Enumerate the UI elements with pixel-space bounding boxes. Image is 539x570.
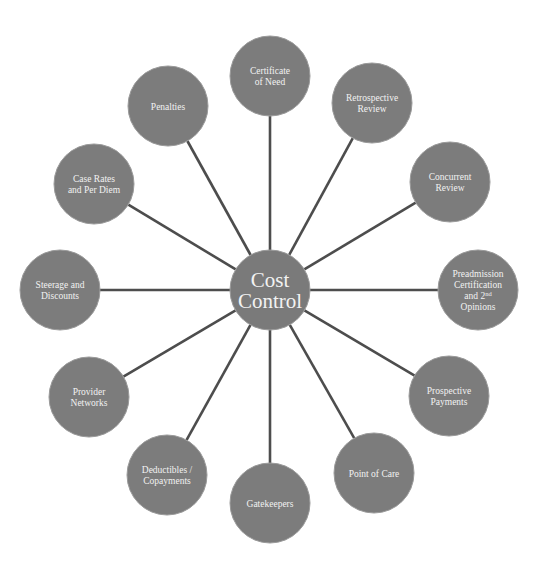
spoke-point-of-care: [290, 325, 354, 438]
spoke-provider-networks: [123, 310, 235, 376]
node-circle: [54, 144, 134, 224]
node-label-line: Payments: [431, 397, 468, 407]
node-steerage-and-discounts: Steerage andDiscounts: [20, 250, 100, 330]
node-circle: [409, 356, 489, 436]
node-provider-networks: ProviderNetworks: [49, 357, 129, 437]
node-label-line: Deductibles /: [142, 465, 193, 475]
node-preadmission-certification: PreadmissionCertificationand 2ndOpinions: [438, 250, 518, 330]
node-label-line: Concurrent: [429, 172, 472, 182]
node-label-line: Review: [435, 183, 464, 193]
center-node: CostControl: [230, 250, 310, 330]
node-label-line: Certification: [454, 280, 502, 290]
node-label-line: Control: [238, 289, 302, 313]
node-label-line: Discounts: [41, 291, 79, 301]
node-case-rates-per-diem: Case Ratesand Per Diem: [54, 144, 134, 224]
node-label-line: Gatekeepers: [247, 499, 294, 509]
node-label-line: Review: [357, 104, 386, 114]
node-label-line: Opinions: [461, 302, 496, 312]
spoke-prospective-payments: [304, 310, 414, 375]
node-circle: [410, 142, 490, 222]
node-label-line: Certificate: [250, 66, 290, 76]
node-circle: [438, 250, 518, 330]
cost-control-diagram: Certificateof NeedRetrospectiveReviewCon…: [0, 0, 539, 570]
node-label-line: Prospective: [427, 386, 471, 396]
node-retrospective-review: RetrospectiveReview: [332, 63, 412, 143]
node-point-of-care: Point of Care: [334, 433, 414, 513]
node-certificate-of-need: Certificateof Need: [230, 36, 310, 116]
node-label-line: Steerage and: [36, 280, 85, 290]
spoke-penalties: [187, 141, 250, 255]
node-label-line: Copayments: [143, 476, 191, 486]
node-label-line: Preadmission: [452, 269, 503, 279]
spoke-concurrent-review: [304, 203, 415, 270]
node-concurrent-review: ConcurrentReview: [410, 142, 490, 222]
node-label-line: Networks: [71, 398, 108, 408]
node-circle: [230, 36, 310, 116]
node-circle: [49, 357, 129, 437]
node-label-line: and Per Diem: [68, 185, 121, 195]
node-circle: [332, 63, 412, 143]
node-circle: [20, 250, 100, 330]
node-deductibles-copayments: Deductibles /Copayments: [127, 435, 207, 515]
node-label-line: Provider: [73, 387, 107, 397]
spoke-deductibles-copayments: [187, 325, 251, 440]
node-label-line: Case Rates: [73, 174, 115, 184]
node-prospective-payments: ProspectivePayments: [409, 356, 489, 436]
node-penalties: Penalties: [128, 66, 208, 146]
node-label-line: Penalties: [151, 102, 186, 112]
node-gatekeepers: Gatekeepers: [230, 463, 310, 543]
spoke-case-rates-per-diem: [128, 205, 235, 270]
spoke-retrospective-review: [289, 138, 353, 255]
node-label-line: Retrospective: [346, 93, 398, 103]
node-circle: [127, 435, 207, 515]
node-label-line: of Need: [255, 77, 286, 87]
node-label-line: Point of Care: [349, 469, 400, 479]
